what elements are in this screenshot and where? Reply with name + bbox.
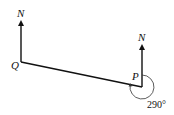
angle-label: 290° (147, 99, 166, 110)
north-arrow-q (18, 20, 24, 62)
bearing-diagram: N N Q P 290° (0, 0, 174, 115)
segment-qp (21, 62, 142, 87)
north-arrow-p (139, 44, 145, 87)
north-label-q: N (16, 7, 25, 19)
north-label-p: N (137, 31, 146, 43)
point-label-q: Q (11, 59, 19, 71)
point-label-p: P (131, 70, 139, 82)
